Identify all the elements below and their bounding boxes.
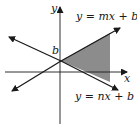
equation-upper-label: y = mx + b bbox=[76, 11, 137, 22]
intercept-label: b bbox=[52, 45, 59, 56]
equation-lower-label: y = nx + b bbox=[75, 91, 134, 102]
diagram-canvas: y x b y = mx + b y = nx + b bbox=[0, 0, 137, 129]
line-mx-plus-b-left bbox=[12, 61, 61, 91]
x-axis-label: x bbox=[124, 73, 130, 84]
y-axis-label: y bbox=[51, 3, 57, 14]
